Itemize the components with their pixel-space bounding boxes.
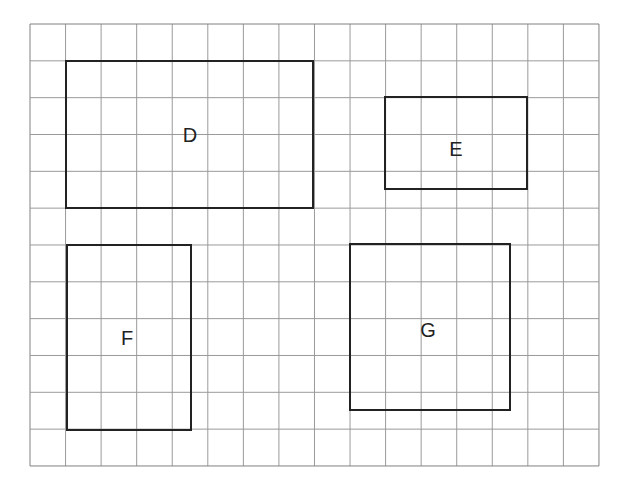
rectangle-e: E — [385, 97, 527, 189]
rectangle-g: G — [350, 244, 510, 410]
rectangle-f-label: F — [121, 327, 133, 349]
rectangle-d-label: D — [183, 124, 197, 146]
grid-diagram: D E F G — [0, 0, 625, 486]
rectangles: D E F G — [66, 61, 527, 430]
rectangle-e-label: E — [449, 138, 462, 160]
rectangle-g-label: G — [420, 319, 436, 341]
